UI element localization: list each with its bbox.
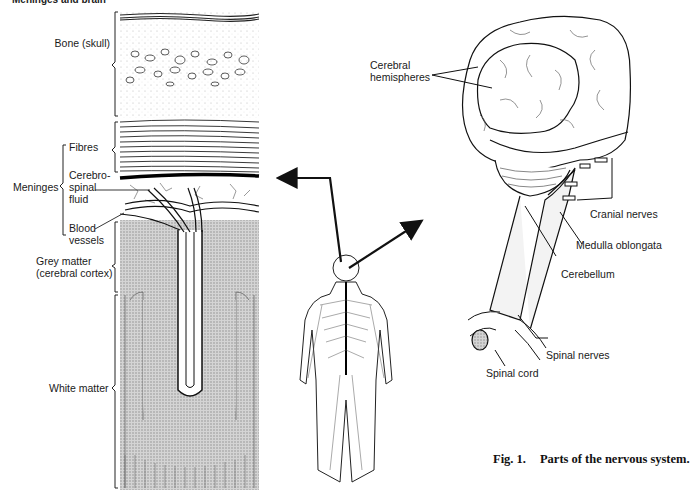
label-cerebellum: Cerebellum: [561, 268, 615, 281]
label-medulla-oblongata: Medulla oblongata: [576, 239, 662, 252]
label-white-matter: White matter: [49, 382, 109, 395]
label-cerebral-cortex: (cerebral cortex): [36, 267, 112, 280]
label-grey-matter: Grey matter: [36, 255, 91, 268]
label-spinal-cord: Spinal cord: [486, 367, 539, 380]
label-bone-skull: Bone (skull): [20, 37, 110, 50]
label-cerebral: Cerebral: [370, 59, 410, 72]
label-blood-line2: vessels: [69, 234, 104, 247]
human-figure: [300, 255, 392, 482]
label-meninges: Meninges: [13, 181, 59, 194]
label-cranial-nerves: Cranial nerves: [590, 208, 658, 221]
fibres-layer: [120, 120, 259, 172]
brain-diagram: [463, 16, 631, 360]
label-spinal-nerves: Spinal nerves: [546, 349, 610, 362]
arrow-to-brain: [349, 222, 420, 268]
label-brackets: [60, 12, 118, 488]
label-csf-line3: fluid: [69, 193, 88, 206]
arrow-to-section: [280, 178, 341, 262]
caption-text: Parts of the nervous system.: [540, 452, 690, 466]
label-fibres: Fibres: [69, 141, 98, 154]
label-blood-line1: Blood: [69, 222, 96, 235]
caption-number: Fig. 1.: [493, 452, 526, 466]
figure-caption: Fig. 1.Parts of the nervous system.: [493, 452, 690, 467]
label-csf-line1: Cerebro-: [69, 169, 110, 182]
meninges-section-diagram: [60, 12, 259, 490]
label-csf-line2: spinal: [69, 181, 96, 194]
label-hemispheres: hemispheres: [370, 71, 430, 84]
